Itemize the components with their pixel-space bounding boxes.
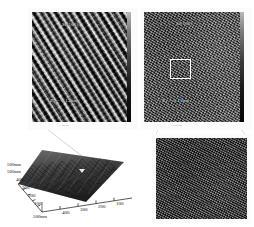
roughness-subscript: q [53, 100, 55, 104]
afm-top-right-roughness-label: Rq = 0.11nm [162, 98, 189, 104]
plot3d-xtick-4: 100 [116, 201, 124, 206]
plot3d-xtick-3: 200 [98, 204, 106, 209]
plot3d-xtick-2: 300 [80, 207, 88, 212]
plot3d-xtick-1: 400 [62, 210, 70, 215]
plot3d-ytick-3: 300 [22, 185, 30, 190]
afm-image-top-right[interactable]: Si(100) Rq = 0.11nm [144, 12, 240, 122]
plot3d-ytick-5: 100 [34, 201, 42, 206]
scalebar-caption-top-left: 1.00 µm [60, 124, 69, 127]
afm-zoom-inset-image[interactable] [156, 138, 247, 219]
afm-texture-zoom [156, 138, 247, 219]
plot3d-ytick-4: 200 [28, 193, 36, 198]
plot3d-ytick-1: 500nm [7, 169, 21, 174]
surface-plot-svg [4, 140, 149, 226]
roughness-subscript: q [165, 100, 167, 104]
afm-top-left-roughness-label: Rq = 0.13nm [50, 98, 78, 104]
afm-texture-striped [32, 12, 127, 122]
colorbar-top-right [240, 12, 244, 122]
afm-texture-grain [144, 12, 240, 122]
plot3d-xtick-0: 500nm [33, 214, 47, 219]
colorbar-top-left [127, 12, 131, 122]
roi-selection-box[interactable] [170, 59, 191, 79]
figure-canvas: Si(100) Rq = 0.13nm 1.00 µm Si(100) Rq =… [0, 0, 254, 227]
plot3d-ytick-0: 500nm [7, 162, 21, 167]
roughness-value: = 0.11nm [169, 98, 190, 103]
afm-image-top-left[interactable]: Si(100) Rq = 0.13nm [32, 12, 127, 122]
afm-top-right-material-label: Si(100) [176, 21, 192, 26]
roughness-value: = 0.13nm [57, 98, 78, 103]
plot3d-ytick-2: 400 [16, 177, 24, 182]
afm-top-left-material-label: Si(100) [62, 22, 78, 27]
scalebar-caption-top-right: 1.00 µm [173, 124, 182, 127]
surface-plot-3d[interactable]: 500nm 500nm 400 300 200 100 500nm 400 30… [4, 140, 149, 226]
